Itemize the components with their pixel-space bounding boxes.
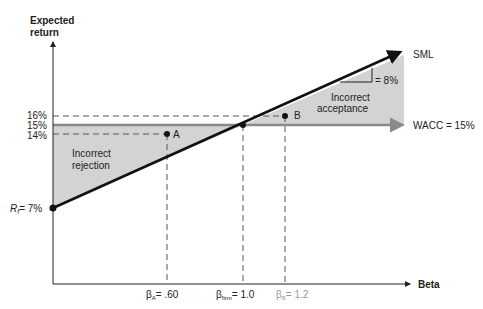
wacc-label: WACC = 15% bbox=[413, 120, 475, 131]
point-rf bbox=[50, 205, 57, 212]
region-left-line1: Incorrect bbox=[72, 148, 111, 159]
y-tick-14: 14% bbox=[27, 130, 47, 141]
point-firm bbox=[240, 122, 246, 128]
incorrect-acceptance-region bbox=[243, 55, 404, 125]
region-right-line2: acceptance bbox=[317, 103, 369, 114]
point-a bbox=[164, 131, 170, 137]
x-tick-beta-firm: βfirm= 1.0 bbox=[216, 289, 255, 301]
point-a-label: A bbox=[173, 129, 180, 140]
point-b bbox=[282, 113, 288, 119]
slope-label: = 8% bbox=[375, 75, 398, 86]
point-b-label: B bbox=[294, 110, 301, 121]
y-axis-label-line2: return bbox=[30, 27, 59, 38]
x-axis-label: Beta bbox=[418, 279, 440, 290]
rf-label: Rf= 7% bbox=[10, 203, 42, 215]
chart: Expected return 16% 15% 14% Rf= 7% A B I… bbox=[0, 0, 483, 309]
region-right-line1: Incorrect bbox=[331, 92, 370, 103]
y-axis-label-line1: Expected bbox=[30, 15, 74, 26]
sml-label: SML bbox=[413, 49, 434, 60]
x-tick-beta-b: βB= 1.2 bbox=[276, 289, 309, 301]
x-tick-beta-a: βA= .60 bbox=[146, 289, 179, 301]
region-left-line2: rejection bbox=[72, 160, 110, 171]
